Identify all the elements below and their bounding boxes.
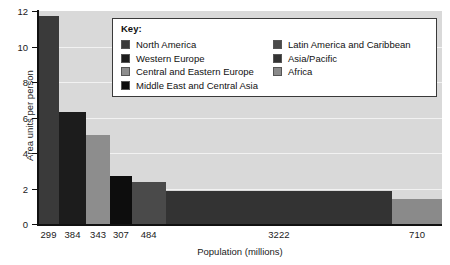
x-tick-label: 384 (65, 229, 81, 240)
legend-item-label: Africa (288, 66, 312, 77)
x-axis-line (37, 224, 442, 226)
y-tick-label: 4 (0, 148, 28, 159)
y-tick-label: 0 (0, 219, 28, 230)
y-tick-label: 12 (0, 6, 28, 17)
legend-swatch-icon (121, 54, 130, 63)
x-axis-title: Population (millions) (38, 246, 442, 257)
bar[interactable] (38, 16, 59, 224)
bar[interactable] (59, 112, 86, 224)
legend-swatch-icon (121, 40, 130, 49)
legend-title: Key: (121, 23, 142, 34)
legend-item[interactable]: Latin America and Caribbean (273, 38, 411, 52)
legend-item-label: Western Europe (136, 53, 204, 64)
legend-item-label: Central and Eastern Europe (136, 66, 254, 77)
legend-item[interactable]: Africa (273, 65, 411, 79)
legend-column-right: Latin America and CaribbeanAsia/PacificA… (273, 38, 411, 79)
x-tick-label: 343 (90, 229, 106, 240)
y-tick-label: 2 (0, 183, 28, 194)
y-tick-mark (32, 82, 38, 83)
x-tick-label: 307 (113, 229, 129, 240)
x-tick-label: 299 (41, 229, 57, 240)
legend-item[interactable]: North America (121, 38, 258, 52)
x-tick-label: 3222 (268, 229, 289, 240)
legend-box: Key: North AmericaWestern EuropeCentral … (112, 18, 437, 97)
y-tick-label: 8 (0, 77, 28, 88)
bar[interactable] (110, 176, 132, 224)
legend-swatch-icon (273, 54, 282, 63)
legend-item-label: Middle East and Central Asia (136, 80, 258, 91)
y-tick-mark (32, 47, 38, 48)
legend-item[interactable]: Asia/Pacific (273, 52, 411, 66)
y-tick-mark (32, 224, 38, 225)
y-tick-label: 10 (0, 41, 28, 52)
bar[interactable] (86, 135, 110, 224)
legend-column-left: North AmericaWestern EuropeCentral and E… (121, 38, 258, 92)
legend-swatch-icon (273, 67, 282, 76)
legend-item-label: Latin America and Caribbean (288, 39, 411, 50)
legend-item[interactable]: Middle East and Central Asia (121, 79, 258, 93)
x-tick-label: 710 (409, 229, 425, 240)
bar[interactable] (132, 182, 166, 224)
legend-item[interactable]: Western Europe (121, 52, 258, 66)
y-tick-mark (32, 11, 38, 12)
bar[interactable] (166, 191, 392, 224)
y-tick-mark (32, 118, 38, 119)
x-tick-label: 484 (141, 229, 157, 240)
y-tick-mark (32, 153, 38, 154)
y-tick-mark (32, 189, 38, 190)
legend-item-label: Asia/Pacific (288, 53, 337, 64)
legend-item[interactable]: Central and Eastern Europe (121, 65, 258, 79)
bar[interactable] (392, 199, 442, 224)
bar-chart: Area units per person 024681012 29938434… (0, 0, 450, 265)
legend-item-label: North America (136, 39, 196, 50)
legend-swatch-icon (121, 81, 130, 90)
legend-swatch-icon (273, 40, 282, 49)
y-tick-label: 6 (0, 112, 28, 123)
legend-swatch-icon (121, 67, 130, 76)
